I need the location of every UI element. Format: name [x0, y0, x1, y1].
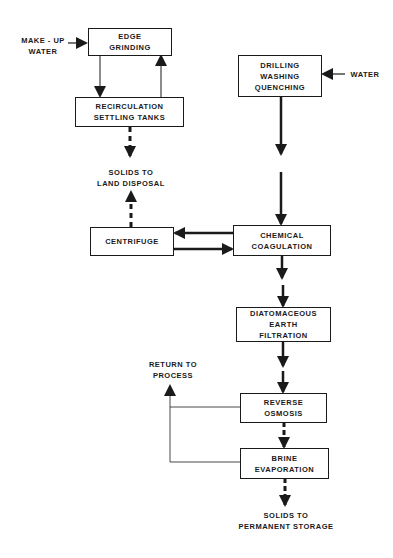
node-reverse-osmosis: REVERSE OSMOSIS	[240, 393, 327, 423]
node-drilling-washing-quenching: DRILLING WASHING QUENCHING	[238, 55, 322, 97]
node-label: CENTRIFUGE	[105, 236, 159, 247]
node-label: FILTRATION	[259, 330, 307, 341]
node-label: EVAPORATION	[255, 464, 314, 475]
label-makeup-water: MAKE - UP WATER	[18, 35, 68, 57]
label-solids-to-permanent-storage: SOLIDS TO PERMANENT STORAGE	[238, 510, 334, 532]
node-chemical-coagulation: CHEMICAL COAGULATION	[233, 225, 331, 256]
node-edge-grinding: EDGE GRINDING	[88, 28, 172, 56]
node-label: SETTLING TANKS	[94, 112, 165, 123]
node-label: DRILLING	[260, 60, 299, 71]
label-water: WATER	[345, 69, 385, 80]
node-label: DIATOMACEOUS	[250, 308, 317, 319]
node-label: REVERSE	[264, 397, 303, 408]
connector-layer	[0, 0, 393, 558]
node-brine-evaporation: BRINE EVAPORATION	[240, 448, 329, 479]
process-flow-diagram: EDGE GRINDING RECIRCULATION SETTLING TAN…	[0, 0, 393, 558]
node-label: OSMOSIS	[264, 408, 303, 419]
node-label: GRINDING	[109, 42, 151, 53]
node-centrifuge: CENTRIFUGE	[90, 227, 174, 256]
label-return-to-process: RETURN TO PROCESS	[140, 359, 206, 381]
node-label: CHEMICAL	[260, 230, 304, 241]
node-label: BRINE	[272, 453, 298, 464]
node-label: EARTH	[269, 319, 297, 330]
node-recirculation-settling-tanks: RECIRCULATION SETTLING TANKS	[75, 97, 184, 127]
node-label: QUENCHING	[255, 82, 305, 93]
node-label: COAGULATION	[252, 241, 313, 252]
node-label: EDGE	[118, 31, 141, 42]
node-label: WASHING	[260, 71, 299, 82]
node-label: RECIRCULATION	[95, 101, 163, 112]
node-diatomaceous-earth-filtration: DIATOMACEOUS EARTH FILTRATION	[236, 307, 331, 342]
label-solids-to-land-disposal: SOLIDS TO LAND DISPOSAL	[90, 167, 172, 189]
